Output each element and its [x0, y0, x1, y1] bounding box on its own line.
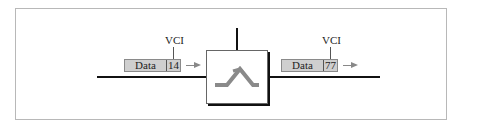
- vci-pointer-outgoing: [330, 47, 331, 59]
- incoming-packet: Data 14: [124, 59, 181, 72]
- vci-label-incoming: VCI: [165, 34, 184, 46]
- link-line-top: [236, 28, 238, 50]
- switch-crossover-icon: [207, 51, 267, 103]
- packet-vci-field: 77: [323, 60, 337, 71]
- packet-data-field: Data: [125, 60, 166, 71]
- packet-vci-field: 14: [166, 60, 180, 71]
- switch-box: [206, 50, 268, 104]
- link-line-right: [268, 76, 380, 78]
- vci-pointer-incoming: [173, 47, 174, 59]
- arrowhead-incoming-icon: [194, 62, 201, 68]
- vci-label-outgoing: VCI: [322, 34, 341, 46]
- outgoing-packet: Data 77: [281, 59, 338, 72]
- link-line-left: [97, 76, 207, 78]
- packet-data-field: Data: [282, 60, 323, 71]
- arrowhead-outgoing-icon: [351, 62, 358, 68]
